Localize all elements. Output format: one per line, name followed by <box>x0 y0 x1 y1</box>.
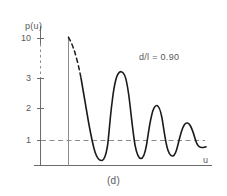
panel-caption: (d) <box>0 176 227 185</box>
y-tick-label-2: 2 <box>15 104 31 113</box>
y-axis-label: p(u) <box>25 22 42 31</box>
curve-main <box>81 72 206 161</box>
figure-panel-d: 10 3 2 1 p(u) u d/l = 0.90 (d) <box>0 0 227 196</box>
y-tick-label-10: 10 <box>15 34 31 43</box>
parameter-annotation: d/l = 0.90 <box>139 53 179 62</box>
y-tick-label-1: 1 <box>15 136 31 145</box>
curve-dashed-segment <box>69 38 82 79</box>
x-axis-label: u <box>203 156 208 165</box>
y-tick-label-3: 3 <box>15 74 31 83</box>
